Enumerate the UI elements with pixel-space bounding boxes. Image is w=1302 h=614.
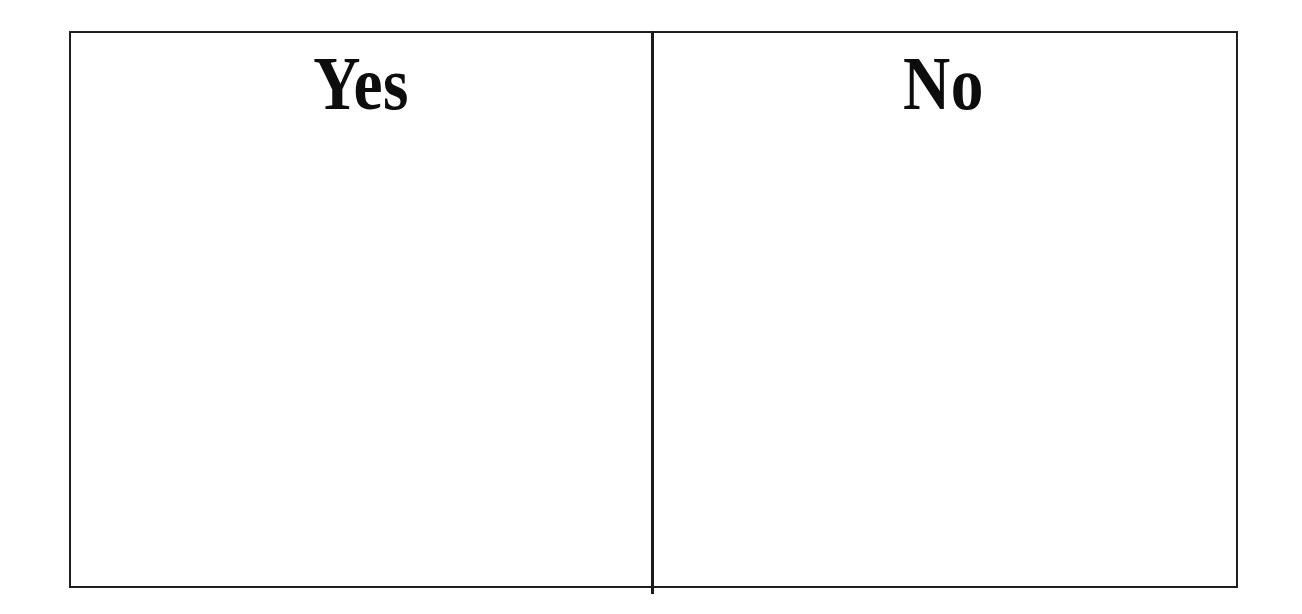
table-cell-yes[interactable]: Yes [71, 33, 651, 586]
column-header-yes: Yes [112, 45, 611, 121]
table-cell-no[interactable]: No [651, 33, 1236, 586]
column-header-no: No [692, 45, 1195, 121]
cell-body-no[interactable] [651, 143, 1236, 586]
cell-body-yes[interactable] [71, 143, 651, 586]
yes-no-table: Yes No [69, 31, 1238, 588]
document-page: Yes No [0, 0, 1302, 614]
column-divider [651, 31, 654, 594]
